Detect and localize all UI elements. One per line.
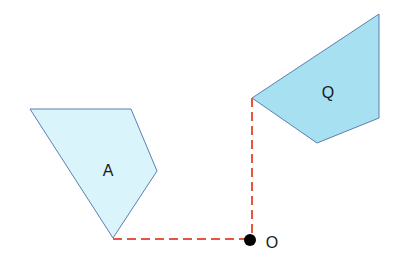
- shape-q-polygon: [252, 14, 379, 143]
- shape-q-label: Q: [322, 84, 334, 101]
- origin-label: O: [266, 234, 278, 251]
- origin-point: [244, 234, 256, 246]
- diagram-canvas: A Q O: [0, 0, 402, 269]
- shape-a-polygon: [30, 109, 157, 238]
- shape-a-label: A: [103, 162, 114, 179]
